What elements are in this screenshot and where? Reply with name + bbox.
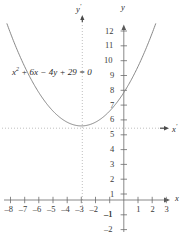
y-tick-label: 3 bbox=[110, 160, 114, 169]
y-tick-label: 9 bbox=[110, 71, 114, 80]
y-tick-label: 10 bbox=[104, 56, 113, 65]
y-tick-label: 5 bbox=[110, 130, 114, 139]
equation-annotation: x2 + 6x − 4y + 29 = 0 bbox=[12, 66, 92, 77]
y-tick-label: 1 bbox=[110, 190, 114, 199]
y-tick-label: –2 bbox=[104, 225, 113, 234]
x-axis-label: x bbox=[175, 194, 179, 203]
x-tick-label: –8 bbox=[5, 205, 14, 214]
y-axis-label: y bbox=[121, 3, 125, 12]
x-tick-label: –2 bbox=[90, 205, 99, 214]
x-prime-mark: ′ bbox=[176, 122, 178, 130]
x-prime-axis-label: x′ bbox=[172, 123, 177, 133]
x-tick-label: –7 bbox=[19, 205, 28, 214]
x-tick-label: –5 bbox=[47, 205, 56, 214]
x-prime-arrowhead-icon bbox=[164, 126, 169, 130]
y-prime-axis-label: y′ bbox=[76, 3, 81, 13]
x-tick-label: –6 bbox=[33, 205, 42, 214]
y-tick-label: 6 bbox=[110, 115, 114, 124]
x-tick-label: –1 bbox=[104, 210, 113, 219]
y-prime-arrowhead-icon bbox=[80, 15, 84, 20]
y-tick-label: 4 bbox=[110, 145, 114, 154]
x-tick-label: 2 bbox=[150, 205, 154, 214]
parabola-figure: 12 11 10 9 8 7 6 5 4 3 2 1 –1 –2 –8 –7 –… bbox=[0, 0, 188, 240]
y-tick-label: 7 bbox=[110, 101, 114, 110]
x-axis-arrowhead-icon bbox=[164, 198, 170, 203]
y-tick-label: 12 bbox=[105, 27, 114, 36]
y-tick-label: 8 bbox=[110, 86, 114, 95]
x-tick-label: 1 bbox=[136, 205, 140, 214]
y-tick-label: 11 bbox=[105, 41, 113, 50]
y-tick-label: 2 bbox=[110, 175, 114, 184]
y-axis-arrowhead-icon bbox=[122, 25, 127, 31]
y-prime-mark: ′ bbox=[80, 2, 82, 10]
x-tick-label: –4 bbox=[61, 205, 70, 214]
x-tick-label: –3 bbox=[75, 205, 84, 214]
equation-rest: + 6x − 4y + 29 = 0 bbox=[19, 67, 92, 77]
x-tick-label: 3 bbox=[165, 205, 169, 214]
